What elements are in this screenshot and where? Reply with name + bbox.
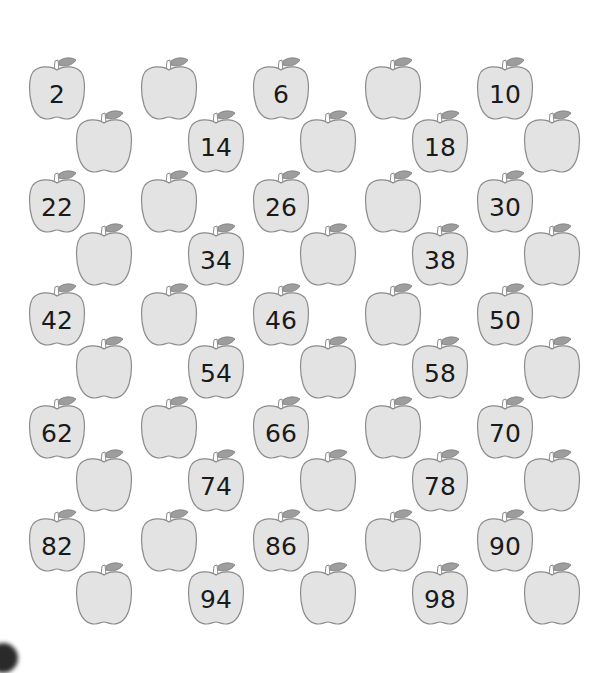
- apple-number: 94: [187, 580, 245, 620]
- apple-number: 22: [28, 188, 86, 228]
- apple-cell: [75, 562, 133, 626]
- apple-cell: [299, 562, 357, 626]
- apple-number: [299, 354, 357, 394]
- apple-number: [75, 467, 133, 507]
- apple-number: [140, 301, 198, 341]
- apple-number: [299, 467, 357, 507]
- apple-number: 54: [187, 354, 245, 394]
- apple-number: 62: [28, 414, 86, 454]
- apple-number: 82: [28, 527, 86, 567]
- apple-number: [140, 527, 198, 567]
- apple-number: [75, 241, 133, 281]
- apple-cell-54: 54: [187, 336, 245, 400]
- apple-cell-38: 38: [411, 223, 469, 287]
- apple-number: [523, 241, 581, 281]
- apple-cell: [523, 110, 581, 174]
- apple-cell-94: 94: [187, 562, 245, 626]
- apple-number: 46: [252, 301, 310, 341]
- apple-number: 2: [28, 75, 86, 115]
- apple-cell: [523, 449, 581, 513]
- apple-number: 50: [476, 301, 534, 341]
- apple-cell: [299, 336, 357, 400]
- apple-number: 30: [476, 188, 534, 228]
- apple-number: 70: [476, 414, 534, 454]
- apple-number: 90: [476, 527, 534, 567]
- apple-cell: [75, 110, 133, 174]
- apple-cell-74: 74: [187, 449, 245, 513]
- apple-number: 98: [411, 580, 469, 620]
- apple-cell: [299, 110, 357, 174]
- apple-number: 86: [252, 527, 310, 567]
- apple-cell: [75, 449, 133, 513]
- apple-number: [299, 241, 357, 281]
- apple-number: [364, 301, 422, 341]
- apple-cell: [523, 336, 581, 400]
- apple-number: [75, 354, 133, 394]
- apple-number: [523, 580, 581, 620]
- apple-number: 26: [252, 188, 310, 228]
- apple-number: 34: [187, 241, 245, 281]
- apple-number: 18: [411, 128, 469, 168]
- apple-number: 6: [252, 75, 310, 115]
- apple-number: [523, 128, 581, 168]
- apple-number: 42: [28, 301, 86, 341]
- apple-number: [140, 188, 198, 228]
- apple-cell: [75, 336, 133, 400]
- apple-number: [75, 128, 133, 168]
- apple-number: 14: [187, 128, 245, 168]
- apple-number: 66: [252, 414, 310, 454]
- apple-number: [523, 354, 581, 394]
- apple-number: [299, 128, 357, 168]
- apple-cell: [523, 223, 581, 287]
- apple-number: [364, 414, 422, 454]
- apple-number: 74: [187, 467, 245, 507]
- apple-cell-58: 58: [411, 336, 469, 400]
- apple-cell: [75, 223, 133, 287]
- apple-cell: [299, 449, 357, 513]
- apple-number: 58: [411, 354, 469, 394]
- apple-number: [299, 580, 357, 620]
- apple-number: [523, 467, 581, 507]
- apple-cell-78: 78: [411, 449, 469, 513]
- apple-cell: [299, 223, 357, 287]
- apple-number: 10: [476, 75, 534, 115]
- apple-cell-14: 14: [187, 110, 245, 174]
- apple-cell: [523, 562, 581, 626]
- apple-number: [140, 414, 198, 454]
- apple-number: [364, 527, 422, 567]
- apple-number: 78: [411, 467, 469, 507]
- apple-number: [364, 75, 422, 115]
- dark-corner-shadow: [0, 643, 18, 673]
- apple-cell-98: 98: [411, 562, 469, 626]
- apple-number: [364, 188, 422, 228]
- apple-number: [75, 580, 133, 620]
- apple-cell-18: 18: [411, 110, 469, 174]
- apple-cell-34: 34: [187, 223, 245, 287]
- apple-number: [140, 75, 198, 115]
- apple-number: 38: [411, 241, 469, 281]
